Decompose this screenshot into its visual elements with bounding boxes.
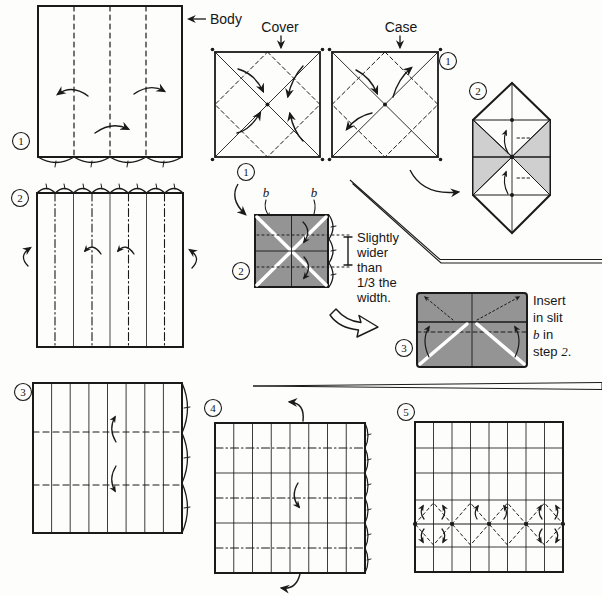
panel-body-step1 (38, 6, 182, 167)
slit-b-label-right: b (311, 185, 318, 200)
svg-text:2: 2 (17, 192, 23, 204)
section-divider-lower (253, 383, 602, 390)
center-dot (510, 155, 514, 159)
fold-dot (524, 522, 528, 526)
note-width: Slightly wider than 1/3 the width. (356, 230, 399, 305)
diagram-canvas: 1 Body Cover 1 Case (0, 0, 602, 596)
svg-text:Insert: Insert (533, 293, 566, 308)
svg-text:3: 3 (401, 342, 407, 354)
step-badge-4: 4 (205, 400, 222, 417)
svg-text:3: 3 (20, 386, 26, 398)
step-badge-body-3: 3 (15, 384, 32, 401)
note-insert: Insert in slit b in step 2. (533, 293, 571, 359)
panel-cover-step2: b b (255, 185, 352, 287)
panel-case-step2 (473, 83, 550, 233)
svg-text:1/3 the: 1/3 the (357, 275, 397, 290)
corner-dot (328, 158, 332, 162)
origami-instruction-page: 1 Body Cover 1 Case (0, 0, 602, 596)
svg-text:2: 2 (475, 85, 481, 97)
panel-body-step3 (33, 383, 190, 533)
svg-text:wider: wider (356, 245, 389, 260)
fold-dot (487, 522, 491, 526)
svg-text:in slit: in slit (533, 310, 563, 325)
panel-case-step1: Case (328, 19, 443, 161)
svg-text:than: than (357, 260, 382, 275)
fold-dot (413, 522, 417, 526)
pleat-ticks (55, 161, 164, 167)
svg-text:step 2.: step 2. (533, 344, 571, 359)
turn-step-arrow-icon (330, 309, 378, 337)
fold-dot (450, 522, 454, 526)
reference-dot (510, 118, 514, 122)
step-badge-cover-1: 1 (238, 164, 255, 181)
body-label: Body (210, 11, 242, 27)
reference-dot (510, 193, 514, 197)
fold-arrow-icon (190, 250, 197, 268)
dimension-marker (344, 237, 352, 265)
svg-text:b in: b in (533, 327, 553, 342)
step-badge-5: 5 (398, 404, 415, 421)
corner-dot (439, 48, 443, 52)
panel-cover-step1: Cover (211, 19, 325, 161)
svg-text:1: 1 (445, 55, 451, 67)
svg-text:1: 1 (243, 166, 249, 178)
svg-text:2: 2 (238, 265, 244, 277)
panel-step4 (215, 402, 371, 588)
panel-cover-step3 (417, 293, 527, 367)
step-badge-case-2: 2 (470, 83, 487, 100)
corner-dot (211, 48, 215, 52)
panel-step5 (413, 422, 565, 572)
step-badge-body-1: 1 (13, 133, 30, 150)
svg-text:4: 4 (210, 402, 216, 414)
fold-arrow-icon (23, 248, 30, 266)
fold-arrow-icon (290, 402, 303, 421)
body-callout: Body (189, 11, 242, 27)
svg-text:1: 1 (18, 135, 24, 147)
svg-text:width.: width. (356, 290, 391, 305)
svg-text:5: 5 (403, 406, 409, 418)
cover-label: Cover (261, 19, 299, 35)
fold-dot (561, 522, 565, 526)
next-step-arrow-icon (235, 184, 245, 214)
corner-dot (321, 158, 325, 162)
step-badge-cover-3: 3 (396, 340, 413, 357)
case-label: Case (385, 19, 418, 35)
svg-text:Slightly: Slightly (357, 230, 399, 245)
fold-arrow-icon (282, 574, 300, 588)
next-step-arrow-icon (410, 170, 458, 193)
slit-b-label-left: b (263, 185, 270, 200)
center-dot (383, 103, 387, 107)
step-badge-cover-2: 2 (233, 263, 250, 280)
step-badge-body-2: 2 (12, 190, 29, 207)
step-badge-case-1: 1 (440, 53, 457, 70)
corner-dot (328, 48, 332, 52)
corner-dot (211, 158, 215, 162)
corner-dot (439, 158, 443, 162)
panel-body-step2 (23, 184, 196, 347)
corner-dot (321, 48, 325, 52)
center-dot (266, 103, 270, 107)
